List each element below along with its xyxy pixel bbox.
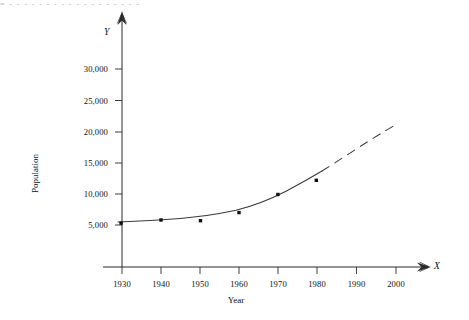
y-tick-label-25000: 25,000 — [55, 96, 108, 106]
y-axis-title: Population — [30, 154, 40, 193]
y-tick-label-30000: 30,000 — [55, 64, 108, 74]
x-axis-letter: X — [434, 261, 440, 271]
x-axis — [103, 262, 431, 271]
y-axis-ticks — [115, 69, 122, 225]
y-axis — [117, 11, 126, 267]
x-tick-label-1960: 1960 — [221, 279, 257, 289]
x-tick-label-1950: 1950 — [182, 279, 218, 289]
trend-curve-solid — [118, 171, 322, 222]
x-tick-label-1990: 1990 — [339, 279, 375, 289]
y-tick-label-20000: 20,000 — [55, 127, 108, 137]
x-tick-label-1980: 1980 — [299, 279, 335, 289]
y-tick-label-10000: 10,000 — [55, 189, 108, 199]
y-tick-label-5000: 5,000 — [55, 220, 108, 230]
x-tick-label-2000: 2000 — [378, 279, 414, 289]
data-point — [276, 193, 279, 196]
data-points — [119, 179, 318, 225]
x-tick-label-1930: 1930 — [104, 279, 140, 289]
trend-curve-dashed — [322, 124, 397, 171]
data-point — [159, 218, 162, 221]
x-axis-ticks — [122, 267, 396, 274]
data-point — [199, 219, 202, 222]
x-tick-label-1940: 1940 — [143, 279, 179, 289]
figure-canvas: = - - - - - - - - - - - - - - - - - - — [0, 0, 469, 320]
y-axis-letter: Y — [104, 27, 109, 37]
data-point — [237, 211, 240, 214]
y-tick-label-15000: 15,000 — [55, 158, 108, 168]
x-tick-label-1970: 1970 — [260, 279, 296, 289]
data-point — [315, 179, 318, 182]
x-axis-title: Year — [228, 295, 245, 305]
data-point — [119, 221, 122, 224]
